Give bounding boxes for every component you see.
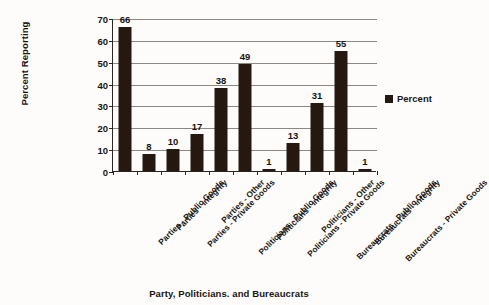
y-tick-label: 40 xyxy=(97,79,108,90)
bar-value-label: 1 xyxy=(362,156,367,167)
bar-group: 1 xyxy=(257,19,281,171)
bar xyxy=(167,149,180,171)
y-tick-label: 10 xyxy=(97,145,108,156)
x-axis-title: Party, Politicians. and Bureaucrats xyxy=(0,288,458,299)
x-tick-mark xyxy=(185,171,186,175)
x-tick-mark xyxy=(137,171,138,175)
y-tick-label: 0 xyxy=(103,167,108,178)
bar-value-label: 66 xyxy=(120,14,131,25)
bar-value-label: 1 xyxy=(266,156,271,167)
bar xyxy=(119,27,132,171)
x-tick-mark xyxy=(353,171,354,175)
chart-legend: Percent xyxy=(385,93,432,104)
bar-value-label: 13 xyxy=(288,130,299,141)
bar-value-label: 49 xyxy=(240,51,251,62)
bar-group: 17 xyxy=(185,19,209,171)
bar xyxy=(215,88,228,171)
bar-group: 49 xyxy=(233,19,257,171)
x-category-label: Parties - Integrity xyxy=(175,178,229,232)
x-tick-mark xyxy=(281,171,282,175)
y-tick-label: 60 xyxy=(97,35,108,46)
x-tick-mark xyxy=(329,171,330,175)
bar-value-label: 8 xyxy=(146,141,151,152)
legend-swatch-percent xyxy=(385,95,393,103)
bar-group: 38 xyxy=(209,19,233,171)
bar xyxy=(239,64,252,171)
bar-value-label: 10 xyxy=(168,136,179,147)
legend-label-percent: Percent xyxy=(397,93,432,104)
bar-value-label: 31 xyxy=(312,90,323,101)
bar-group: 31 xyxy=(305,19,329,171)
bar-group: 55 xyxy=(329,19,353,171)
plot-area: 0102030405060706681017384911331551 xyxy=(112,19,376,172)
bar xyxy=(335,51,348,171)
y-tick-label: 50 xyxy=(97,57,108,68)
x-tick-mark xyxy=(257,171,258,175)
bar-value-label: 55 xyxy=(336,38,347,49)
x-tick-mark xyxy=(113,171,114,175)
x-tick-mark xyxy=(377,171,378,175)
bar xyxy=(311,103,324,171)
bar-group: 13 xyxy=(281,19,305,171)
y-axis-title: Percent Reporting xyxy=(19,4,30,124)
bar-group: 66 xyxy=(113,19,137,171)
x-tick-mark xyxy=(305,171,306,175)
bar xyxy=(263,169,276,171)
x-tick-mark xyxy=(233,171,234,175)
bar-value-label: 17 xyxy=(192,121,203,132)
y-tick-label: 20 xyxy=(97,123,108,134)
bar xyxy=(143,154,156,171)
x-tick-mark xyxy=(161,171,162,175)
y-tick-label: 30 xyxy=(97,101,108,112)
x-tick-mark xyxy=(209,171,210,175)
bar-group: 8 xyxy=(137,19,161,171)
bar-group: 10 xyxy=(161,19,185,171)
bar xyxy=(287,143,300,171)
bar xyxy=(359,169,372,171)
bar-group: 1 xyxy=(353,19,377,171)
x-category-label: Bureaucrats - Private Goods xyxy=(404,178,489,264)
y-tick-label: 70 xyxy=(97,14,108,25)
bar-value-label: 38 xyxy=(216,75,227,86)
bar xyxy=(191,134,204,171)
